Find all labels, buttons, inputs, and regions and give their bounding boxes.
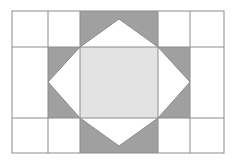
corner-cell-top-right	[158, 11, 190, 47]
side-panel-right	[190, 11, 224, 153]
side-panel-left	[12, 11, 48, 153]
corner-cell-bottom-right	[158, 118, 190, 153]
corner-cell-bottom-left	[48, 118, 80, 153]
diagram-canvas	[0, 0, 236, 164]
corner-cell-top-left	[48, 11, 80, 47]
quilt-block-svg	[0, 0, 236, 164]
center-square	[80, 47, 158, 118]
